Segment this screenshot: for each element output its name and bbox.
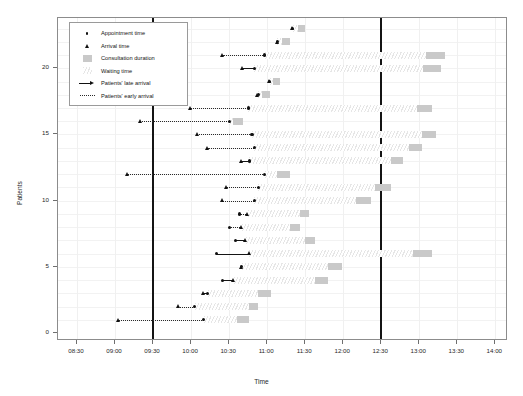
waiting-time-band — [248, 105, 417, 112]
waiting-time-band — [204, 316, 237, 323]
x-axis-tick — [494, 340, 495, 344]
waiting-time-band — [242, 224, 290, 231]
y-axis-tick — [53, 133, 57, 134]
legend-item-label: Arrival time — [101, 43, 129, 49]
y-axis-tick — [53, 200, 57, 201]
legend-item: Patients' early arrival — [73, 90, 184, 103]
consultation-duration-bar — [249, 303, 258, 310]
legend-key — [73, 95, 101, 96]
arrival-time-marker — [195, 132, 199, 136]
waiting-time-band — [265, 52, 426, 59]
arrival-time-marker — [116, 318, 120, 322]
x-axis-tick-label: 14:00 — [474, 347, 514, 354]
waiting-time-band — [208, 290, 259, 297]
waiting-time-band — [249, 250, 413, 257]
arrival-time-marker — [205, 146, 209, 150]
gridline-horizontal — [58, 121, 506, 122]
x-axis-tick-label: 11:00 — [246, 347, 286, 354]
early-arrival-connector — [197, 134, 252, 135]
legend-item: Appointment time — [73, 27, 184, 40]
consultation-duration-bar — [300, 210, 309, 217]
arrival-time-marker — [239, 159, 243, 163]
waiting-time-band — [248, 210, 300, 217]
late-arrival-arrow-icon — [79, 81, 95, 86]
appointment-time-marker — [263, 53, 266, 56]
gridline-vertical — [191, 18, 192, 339]
arrival-time-marker — [220, 198, 224, 202]
x-axis-tick-label: 08:30 — [56, 347, 96, 354]
gridline-horizontal — [58, 293, 506, 294]
legend-item-label: Waiting time — [101, 68, 132, 74]
early-arrival-connector — [119, 320, 204, 321]
consultation-duration-bar — [277, 171, 290, 178]
x-axis-tick — [76, 340, 77, 344]
consultation-duration-bar — [413, 250, 432, 257]
y-axis-tick-label: 0 — [23, 328, 49, 335]
consultation-duration-bar — [391, 157, 402, 164]
y-axis-tick — [53, 266, 57, 267]
arrival-time-marker — [245, 212, 249, 216]
legend-key — [73, 81, 101, 86]
y-axis-tick — [53, 332, 57, 333]
consultation-duration-bar — [422, 131, 436, 138]
consultation-swatch-icon — [83, 55, 92, 62]
y-axis-tick-label: 10 — [23, 196, 49, 203]
appointment-time-marker — [238, 212, 241, 215]
appointment-time-marker — [221, 279, 224, 282]
arrival-time-marker — [247, 251, 251, 255]
legend-key — [73, 55, 101, 62]
consultation-duration-bar — [315, 277, 328, 284]
consultation-duration-bar — [409, 144, 422, 151]
arrival-time-marker — [138, 119, 142, 123]
x-axis-tick — [342, 340, 343, 344]
consultation-duration-bar — [375, 184, 391, 191]
consultation-duration-bar — [290, 224, 300, 231]
x-axis-tick — [266, 340, 267, 344]
legend-key — [73, 32, 101, 35]
x-axis-tick-label: 12:30 — [360, 347, 400, 354]
early-arrival-connector — [223, 55, 265, 56]
waiting-time-band — [246, 237, 306, 244]
arrival-time-marker — [201, 291, 205, 295]
legend-item-label: Patients' late arrival — [101, 80, 150, 86]
appointment-time-marker — [253, 67, 256, 70]
x-axis-tick-label: 10:30 — [208, 347, 248, 354]
waiting-time-band — [254, 144, 409, 151]
consultation-duration-bar — [328, 263, 342, 270]
consultation-duration-bar — [426, 52, 445, 59]
consultation-duration-bar — [417, 105, 432, 112]
x-axis-tick-label: 12:00 — [322, 347, 362, 354]
early-arrival-connector — [140, 121, 229, 122]
y-axis-tick-label: 15 — [23, 129, 49, 136]
appointment-time-marker — [248, 159, 251, 162]
arrival-time-marker — [239, 225, 243, 229]
consultation-duration-bar — [233, 118, 243, 125]
arrival-time-marker — [125, 172, 129, 176]
gridline-vertical — [457, 18, 458, 339]
consultation-duration-bar — [356, 197, 371, 204]
arrival-time-marker — [224, 185, 228, 189]
arrival-time-marker — [231, 278, 235, 282]
appointment-dot-icon — [86, 32, 89, 35]
x-axis-tick — [380, 340, 381, 344]
waiting-time-band — [234, 277, 315, 284]
x-axis-tick — [152, 340, 153, 344]
x-axis-tick — [190, 340, 191, 344]
late-arrival-connector — [216, 254, 249, 255]
appointment-time-marker — [228, 226, 231, 229]
chart-legend: Appointment timeArrival timeConsultation… — [69, 22, 188, 106]
waiting-time-band — [254, 65, 423, 72]
y-axis-tick-label: 20 — [23, 63, 49, 70]
consultation-duration-bar — [282, 38, 290, 45]
waiting-time-band — [265, 171, 278, 178]
consultation-duration-bar — [298, 25, 306, 32]
consultation-duration-bar — [305, 237, 315, 244]
waiting-time-band — [249, 157, 391, 164]
consultation-duration-bar — [423, 65, 441, 72]
legend-item: Arrival time — [73, 40, 184, 53]
arrival-time-marker — [243, 238, 247, 242]
x-axis-tick — [456, 340, 457, 344]
early-arrival-connector — [227, 187, 259, 188]
gridline-horizontal — [58, 307, 506, 308]
early-arrival-connector — [128, 174, 265, 175]
